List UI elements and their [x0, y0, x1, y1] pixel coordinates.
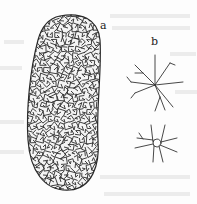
panel-label-a: a — [100, 20, 107, 31]
panel-label-b: b — [151, 36, 158, 47]
figure: a b — [0, 0, 197, 204]
spicule-drawings — [0, 0, 197, 204]
spicule-upper — [127, 55, 183, 111]
spicule-lower — [135, 125, 177, 162]
